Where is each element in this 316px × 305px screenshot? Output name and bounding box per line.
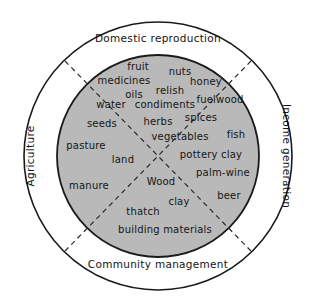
resource-item: water — [96, 99, 126, 110]
resource-item: fuelwood — [196, 94, 243, 105]
ring-label-agriculture: Agriculture — [24, 125, 36, 186]
resource-item: land — [112, 154, 134, 165]
resource-item: vegetables — [151, 131, 208, 142]
resource-item: palm-wine — [196, 167, 250, 178]
resource-item: honey — [190, 76, 222, 87]
resource-item: spices — [185, 112, 217, 123]
ring-label-community-management: Community management — [88, 258, 228, 270]
resource-item: herbs — [143, 116, 172, 127]
resource-item: building materials — [118, 224, 212, 235]
resource-item: fish — [227, 129, 246, 140]
resource-item: manure — [69, 180, 109, 191]
resource-item: beer — [217, 190, 241, 201]
resource-item: nuts — [169, 66, 192, 77]
resource-item: pottery clay — [180, 149, 242, 160]
resource-item: Wood — [147, 176, 176, 187]
resource-item: pasture — [66, 140, 105, 151]
ring-label-domestic-reproduction: Domestic reproduction — [95, 32, 221, 44]
resource-item: seeds — [87, 118, 117, 129]
resource-item: condiments — [135, 99, 195, 110]
venn-diagram: Domestic reproduction Community manageme… — [0, 0, 316, 305]
ring-label-income-generation: Income generation — [281, 104, 293, 208]
resource-item: medicines — [98, 75, 151, 86]
resource-item: thatch — [126, 206, 159, 217]
resource-item: relish — [156, 85, 184, 96]
resource-item: fruit — [127, 61, 149, 72]
resource-item: clay — [168, 196, 189, 207]
